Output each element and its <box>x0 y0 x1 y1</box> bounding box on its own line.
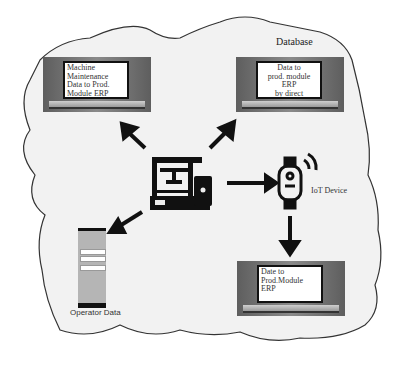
mobile-form-icon <box>78 228 106 308</box>
laptop-screen: Data to prod. module ERP by direct inter… <box>256 61 322 99</box>
laptop-screen: Date to Prod.Module ERP <box>257 265 323 303</box>
operator-data-label: Operator Data <box>70 308 121 317</box>
laptop-prod-module: Date to Prod.Module ERP <box>237 261 345 316</box>
database-title: Database <box>276 36 313 47</box>
laptop-direct-interface: Data to prod. module ERP by direct inter… <box>236 57 344 112</box>
iot-device-label: IoT Device <box>311 186 347 195</box>
laptop-screen: Machine Maintenance Data to Prod. Module… <box>63 61 129 99</box>
laptop-maintenance-data: Machine Maintenance Data to Prod. Module… <box>43 57 151 112</box>
